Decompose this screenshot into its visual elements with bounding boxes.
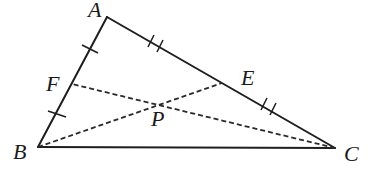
tick-AE xyxy=(148,35,163,52)
label-P: P xyxy=(150,106,164,131)
side-BC xyxy=(38,147,335,148)
label-B: B xyxy=(13,139,26,164)
label-F: F xyxy=(45,71,60,96)
tick-AF xyxy=(82,45,98,53)
cevian-CF xyxy=(72,84,335,148)
cevian-BE xyxy=(38,83,222,147)
triangle-diagram: A B C E F P xyxy=(0,0,384,179)
label-E: E xyxy=(240,65,255,90)
label-C: C xyxy=(344,141,359,166)
label-A: A xyxy=(86,0,102,22)
